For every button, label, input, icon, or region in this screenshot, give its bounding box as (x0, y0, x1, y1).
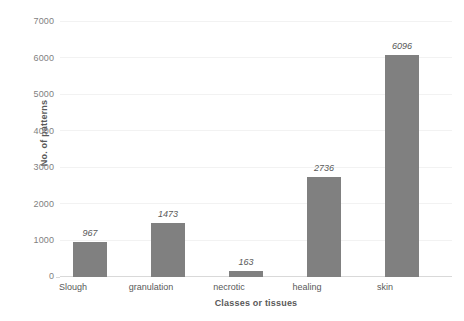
y-tick-label-5000: 5000 (10, 90, 54, 99)
bar-chart-figure: No. of patterns 0 1000 2000 3000 4000 50… (0, 0, 464, 321)
bar-slough[interactable] (73, 242, 107, 277)
bar-value-granulation: 1473 (138, 210, 198, 219)
bar-necrotic[interactable] (229, 271, 263, 277)
y-tick-label-4000: 4000 (10, 127, 54, 136)
x-axis-title: Classes or tissues (60, 298, 452, 308)
bar-series: 967 1473 163 2736 6096 (60, 22, 452, 277)
bar-granulation[interactable] (151, 223, 185, 277)
y-tick-label-3000: 3000 (10, 163, 54, 172)
x-tick-label-skin: skin (355, 282, 415, 292)
bar-value-necrotic: 163 (216, 258, 276, 267)
bar-value-skin: 6096 (372, 42, 432, 51)
y-tick-label-7000: 7000 (10, 17, 54, 26)
x-tick-label-granulation: granulation (113, 282, 189, 292)
bar-skin[interactable] (385, 55, 419, 277)
y-tick-mark-0 (56, 277, 60, 278)
x-tick-label-slough: Slough (43, 282, 103, 292)
y-axis-tick-labels: 0 1000 2000 3000 4000 5000 6000 7000 (8, 22, 54, 277)
x-tick-label-necrotic: necrotic (199, 282, 259, 292)
y-tick-label-0: 0 (10, 272, 54, 281)
bar-healing[interactable] (307, 177, 341, 277)
bar-value-slough: 967 (60, 229, 120, 238)
y-tick-label-6000: 6000 (10, 54, 54, 63)
y-tick-label-1000: 1000 (10, 236, 54, 245)
y-tick-label-2000: 2000 (10, 200, 54, 209)
bar-value-healing: 2736 (294, 164, 354, 173)
x-tick-label-healing: healing (277, 282, 337, 292)
